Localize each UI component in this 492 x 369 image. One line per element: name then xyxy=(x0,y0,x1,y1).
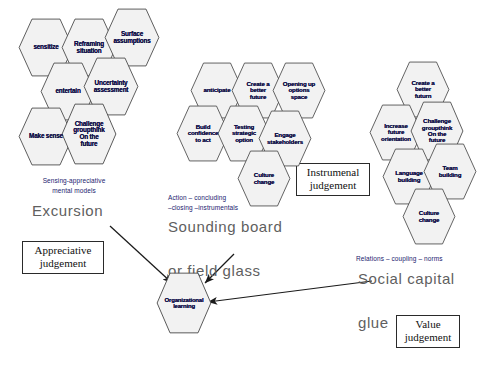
hex-label: Make sense xyxy=(29,133,63,140)
hex-label: Culture change xyxy=(254,172,274,185)
hex-label: Engage stakeholders xyxy=(267,132,303,145)
hex-label: Challenge groupthink On the future xyxy=(73,121,104,147)
hex-organizational-learning[interactable]: Organizational learning xyxy=(156,272,212,334)
hex-label: Create a better futurn xyxy=(412,80,435,99)
hex-label: Testing strategic option xyxy=(232,124,256,143)
hex-label: Increase future orientation xyxy=(381,123,411,142)
caption-sensing-appreciative: Sensing-appreciative mental models xyxy=(20,176,128,196)
hex-challenge-groupthink-future[interactable]: Challenge groupthink On the future xyxy=(61,103,117,165)
arrow-social-capital-to-center xyxy=(208,281,372,302)
box-instrumental-judgement[interactable]: Instrumenal judgement xyxy=(296,163,370,196)
hex-label: Create a better future xyxy=(247,81,270,100)
hex-label: sensitize xyxy=(33,44,58,51)
box-appreciative-judgement[interactable]: Appreciative judgement xyxy=(22,241,104,274)
hex-label: Opening up options space xyxy=(283,81,315,100)
hex-label: Culture change xyxy=(419,210,439,223)
hex-label: anticipate xyxy=(204,87,231,93)
hex-label: Uncertainty assessment xyxy=(94,80,129,93)
hex-label: Organizational learning xyxy=(165,297,204,309)
caption-relations-coupling-norms: Relations – coupling – norms xyxy=(356,254,492,264)
hex-label: Team building xyxy=(439,165,461,178)
hex-label: Build confidence to act xyxy=(188,124,219,143)
caption-excursion: Excursion xyxy=(32,200,103,222)
hex-label: Language building xyxy=(395,170,423,183)
hex-culture-change-mid[interactable]: Culture change xyxy=(237,150,291,207)
hex-label: Challenge groupthink On the future xyxy=(422,118,452,143)
hex-label: Reframing situation xyxy=(74,41,104,54)
hex-label: entertain xyxy=(55,88,80,95)
diagram-canvas: sensitize Reframing situation Surface as… xyxy=(0,0,492,369)
box-value-judgement[interactable]: Value judgement xyxy=(396,315,460,348)
hex-culture-change-right[interactable]: Culture change xyxy=(402,188,456,245)
hex-label: Surface assumptions xyxy=(113,31,150,44)
